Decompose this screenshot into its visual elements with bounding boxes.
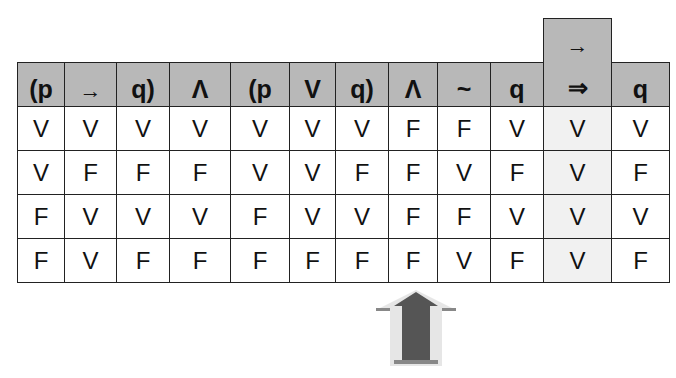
table-cell: F xyxy=(437,194,491,239)
table-cell: F xyxy=(490,150,544,195)
table-cell: V xyxy=(543,238,612,283)
table-cell: V xyxy=(230,106,290,151)
header-cell: q xyxy=(611,62,670,107)
table-cell: V xyxy=(289,106,336,151)
table-cell: F xyxy=(388,150,438,195)
header-cell: Λ xyxy=(169,62,231,107)
table-cell: V xyxy=(437,238,491,283)
table-cell: V xyxy=(289,150,336,195)
header-cell: Λ xyxy=(388,62,438,107)
table-cell: V xyxy=(611,106,670,151)
table-cell: F xyxy=(230,194,290,239)
double-arrow-icon: ⇒ xyxy=(544,74,611,102)
table-cell: F xyxy=(388,238,438,283)
table-cell: V xyxy=(169,194,231,239)
header-cell: (p xyxy=(230,62,290,107)
header-cell: ~ xyxy=(437,62,491,107)
header-cell-conclusion: →⇒ xyxy=(543,18,612,107)
table-cell: F xyxy=(230,238,290,283)
table-cell: V xyxy=(64,106,117,151)
table-cell: V xyxy=(64,194,117,239)
table-cell: F xyxy=(335,150,389,195)
table-cell: F xyxy=(611,238,670,283)
table-cell: F xyxy=(388,194,438,239)
table-cell: F xyxy=(116,238,170,283)
table-cell: F xyxy=(169,238,231,283)
table-cell: F xyxy=(64,150,117,195)
table-cell: V xyxy=(543,106,612,151)
table-cell: V xyxy=(543,150,612,195)
table-cell: F xyxy=(289,238,336,283)
table-cell: V xyxy=(116,106,170,151)
table-cell: V xyxy=(335,106,389,151)
header-cell: V xyxy=(289,62,336,107)
table-cell: F xyxy=(335,238,389,283)
table-cell: F xyxy=(17,238,65,283)
table-cell: V xyxy=(611,194,670,239)
table-cell: V xyxy=(17,106,65,151)
table-cell: V xyxy=(490,106,544,151)
table-cell: V xyxy=(335,194,389,239)
table-cell: F xyxy=(17,194,65,239)
table-cell: F xyxy=(116,150,170,195)
table-cell: V xyxy=(230,150,290,195)
header-cell: (p xyxy=(17,62,65,107)
up-arrow-icon xyxy=(362,288,470,370)
table-cell: V xyxy=(17,150,65,195)
implies-arrow-icon: → xyxy=(544,33,611,59)
table-cell: V xyxy=(116,194,170,239)
table-cell: F xyxy=(611,150,670,195)
table-cell: F xyxy=(437,106,491,151)
table-cell: V xyxy=(490,194,544,239)
header-cell: q) xyxy=(335,62,389,107)
table-cell: F xyxy=(169,150,231,195)
table-cell: F xyxy=(490,238,544,283)
header-cell: q xyxy=(490,62,544,107)
header-cell: q) xyxy=(116,62,170,107)
table-cell: V xyxy=(437,150,491,195)
table-cell: V xyxy=(64,238,117,283)
table-cell: V xyxy=(543,194,612,239)
table-cell: V xyxy=(289,194,336,239)
header-cell: → xyxy=(64,62,117,107)
table-cell: F xyxy=(388,106,438,151)
table-cell: V xyxy=(169,106,231,151)
